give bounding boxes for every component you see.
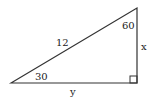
horizontal-side-label: y <box>69 86 76 97</box>
right-triangle <box>11 8 137 83</box>
right-angle-marker <box>130 76 137 83</box>
angle-top-label: 60 <box>122 20 135 31</box>
vertical-side-label: x <box>141 41 147 52</box>
triangle-diagram: 60 12 x 30 y <box>0 0 156 105</box>
angle-bottom-left-label: 30 <box>35 71 48 82</box>
hypotenuse-label: 12 <box>56 37 69 48</box>
